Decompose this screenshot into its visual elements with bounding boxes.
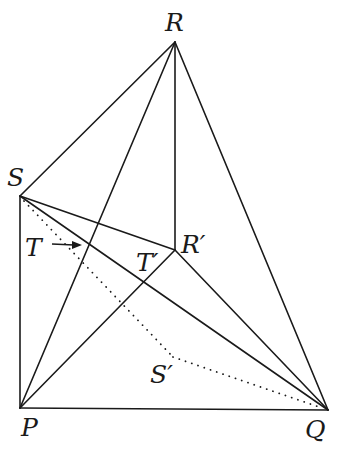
segment-Rprime-Q xyxy=(175,250,328,410)
label-S: S xyxy=(7,163,24,192)
segment-R-P xyxy=(20,42,175,408)
label-R: R xyxy=(164,8,184,37)
segment-R-Q xyxy=(175,42,328,410)
label-P: P xyxy=(20,413,39,442)
arrow-T xyxy=(52,241,82,249)
segment-P-Q xyxy=(20,408,328,410)
label-S-prime: S′ xyxy=(150,360,173,389)
segment-S-Q xyxy=(20,196,328,410)
segment-S-R xyxy=(20,42,175,196)
label-Q: Q xyxy=(305,415,326,444)
dotted-segment-Sprime-Q xyxy=(173,357,322,408)
label-T: T xyxy=(25,233,44,262)
geometry-diagram: R S T R′ T′ S′ P Q xyxy=(0,0,344,457)
label-R-prime: R′ xyxy=(180,230,206,259)
segment-S-Rprime xyxy=(20,196,175,250)
label-T-prime: T′ xyxy=(136,248,159,277)
